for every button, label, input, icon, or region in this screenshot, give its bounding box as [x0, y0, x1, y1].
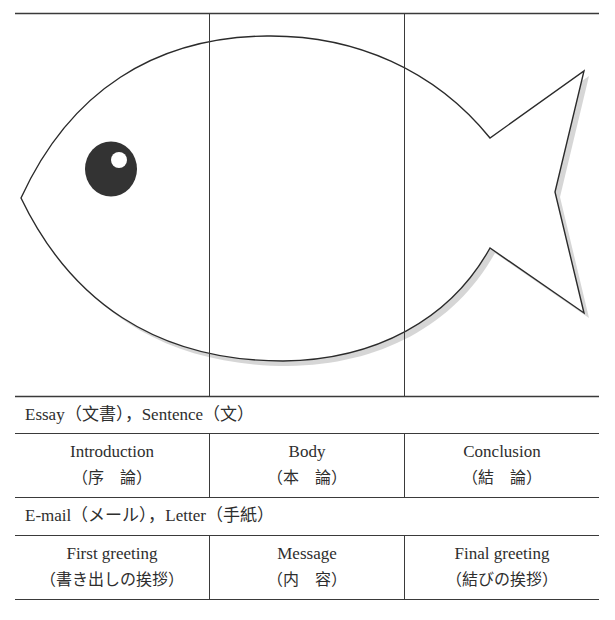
cell-introduction: Introduction （序 論）	[15, 434, 209, 497]
label-en: Conclusion	[405, 439, 599, 465]
label-en: Introduction	[15, 439, 209, 465]
label-jp: （結びの挨拶）	[405, 567, 599, 593]
label-jp: （序 論）	[15, 465, 209, 491]
divider	[15, 497, 599, 498]
section-title-essay: Essay（文書），Sentence（文）	[25, 405, 254, 425]
cell-conclusion: Conclusion （結 論）	[404, 434, 599, 497]
divider	[15, 599, 599, 600]
table-row-essay: Introduction （序 論） Body （本 論） Conclusion…	[15, 434, 599, 497]
fish-outline	[21, 36, 584, 361]
fish-eye-icon	[85, 142, 137, 197]
fish-diagram	[0, 0, 615, 400]
cell-body: Body （本 論）	[209, 434, 404, 497]
label-jp: （本 論）	[210, 465, 404, 491]
cell-message: Message （内 容）	[209, 536, 404, 599]
label-en: Body	[210, 439, 404, 465]
fish-eye-highlight	[111, 152, 127, 168]
label-en: First greeting	[15, 541, 209, 567]
label-jp: （書き出しの挨拶）	[15, 567, 209, 593]
label-jp: （内 容）	[210, 567, 404, 593]
label-en: Final greeting	[405, 541, 599, 567]
label-en: Message	[210, 541, 404, 567]
label-jp: （結 論）	[405, 465, 599, 491]
cell-final-greeting: Final greeting （結びの挨拶）	[404, 536, 599, 599]
section-title-email: E-mail（メール），Letter（手紙）	[25, 506, 274, 526]
cell-first-greeting: First greeting （書き出しの挨拶）	[15, 536, 209, 599]
table-row-email: First greeting （書き出しの挨拶） Message （内 容） F…	[15, 536, 599, 599]
